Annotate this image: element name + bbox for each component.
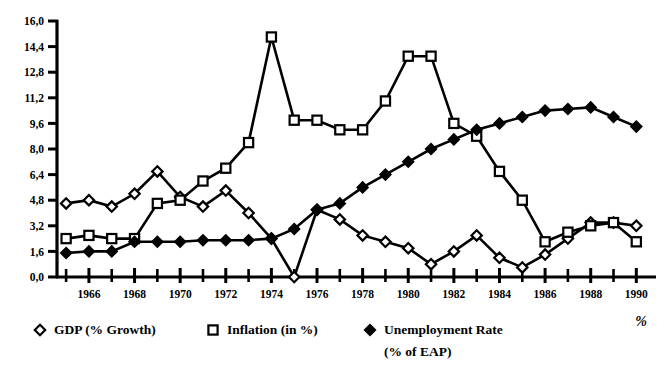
data-point-marker: [563, 104, 573, 114]
y-axis-tick-label: 11,2: [25, 92, 45, 104]
series-line: [66, 37, 636, 242]
y-axis-tick-label: 14,4: [24, 41, 44, 53]
data-point-marker: [84, 195, 94, 205]
legend-item-2[interactable]: Inflation (in %): [208, 322, 317, 337]
legend-label: GDP (% Growth): [54, 322, 156, 337]
data-point-marker: [290, 116, 299, 125]
data-point-marker: [518, 196, 527, 205]
legend-item-3[interactable]: Unemployment Rate(% of EAP): [365, 322, 503, 359]
series-1: [61, 166, 642, 282]
x-axis-tick-label: 1988: [579, 288, 602, 300]
data-point-marker: [175, 237, 185, 247]
data-point-marker: [221, 235, 231, 245]
data-point-marker: [631, 221, 641, 231]
legend-label-line2: (% of EAP): [384, 344, 452, 359]
series-line: [66, 171, 636, 277]
data-point-marker: [152, 237, 162, 247]
legend-label: Inflation (in %): [227, 322, 318, 337]
data-point-marker: [495, 167, 504, 176]
x-axis-tick-label: 1980: [397, 288, 420, 300]
data-point-marker: [426, 144, 436, 154]
data-point-marker: [632, 237, 641, 246]
data-point-marker: [540, 106, 550, 116]
x-axis-tick-label: 1990: [625, 288, 648, 300]
data-point-marker: [358, 125, 367, 134]
data-point-marker: [244, 138, 253, 147]
data-point-marker: [61, 198, 71, 208]
data-point-marker: [609, 218, 618, 227]
data-point-marker: [312, 116, 321, 125]
data-point-marker: [335, 125, 344, 134]
data-point-marker: [403, 157, 413, 167]
x-axis-tick-label: 1986: [534, 288, 557, 300]
data-point-marker: [586, 221, 595, 230]
data-point-marker: [631, 122, 641, 132]
y-axis: 0,01,63,24,86,48,09,611,212,814,416,0: [24, 15, 58, 283]
data-point-marker: [540, 237, 549, 246]
economic-indicators-line-chart: 0,01,63,24,86,48,09,611,212,814,416,0 19…: [0, 0, 667, 380]
data-point-marker: [153, 199, 162, 208]
data-point-marker: [62, 234, 71, 243]
data-point-marker: [609, 112, 619, 122]
data-point-marker: [563, 228, 572, 237]
y-axis-tick-label: 3,2: [30, 220, 45, 232]
y-axis-tick-label: 1,6: [30, 246, 45, 258]
x-axis-tick-label: 1970: [169, 288, 192, 300]
series-layer: [61, 32, 642, 282]
y-axis-tick-label: 4,8: [30, 194, 45, 206]
x-axis-tick-label: 1972: [214, 288, 237, 300]
data-point-marker: [267, 32, 276, 41]
data-point-marker: [494, 118, 504, 128]
data-point-marker: [586, 102, 596, 112]
x-axis-tick-label: 1984: [488, 288, 511, 300]
data-point-marker: [107, 234, 116, 243]
y-axis-tick-label: 0,0: [30, 271, 45, 283]
legend-marker-solid-diamond: [365, 325, 375, 335]
chart-figure: 0,01,63,24,86,48,09,611,212,814,416,0 19…: [0, 0, 667, 380]
data-point-marker: [84, 231, 93, 240]
data-point-marker: [198, 176, 207, 185]
series-2: [62, 32, 641, 246]
x-axis: 1966196819701972197419761978198019821984…: [56, 268, 656, 300]
data-point-marker: [380, 237, 390, 247]
x-axis-tick-label: 1966: [77, 288, 100, 300]
data-point-marker: [107, 246, 117, 256]
data-point-marker: [426, 52, 435, 61]
x-axis-tick-label: 1978: [351, 288, 374, 300]
x-axis-tick-label: 1974: [260, 288, 283, 300]
legend-label: Unemployment Rate: [384, 322, 503, 337]
y-axis-tick-label: 12,8: [24, 66, 44, 78]
unit-label: %: [635, 314, 647, 329]
y-axis-tick-label: 6,4: [30, 169, 45, 181]
x-axis-tick-label: 1976: [306, 288, 329, 300]
data-point-marker: [380, 170, 390, 180]
legend-item-1[interactable]: GDP (% Growth): [35, 322, 156, 337]
y-axis-tick-label: 9,6: [30, 118, 45, 130]
data-point-marker: [61, 248, 71, 258]
data-point-marker: [244, 235, 254, 245]
x-axis-tick-label: 1982: [442, 288, 465, 300]
data-point-marker: [381, 96, 390, 105]
data-point-marker: [221, 164, 230, 173]
data-point-marker: [198, 235, 208, 245]
y-axis-tick-label: 8,0: [30, 143, 45, 155]
data-point-marker: [517, 262, 527, 272]
data-point-marker: [176, 196, 185, 205]
data-point-marker: [404, 52, 413, 61]
data-point-marker: [107, 201, 117, 211]
legend-marker-hollow-square: [208, 325, 217, 334]
data-point-marker: [517, 112, 527, 122]
legend-marker-hollow-diamond: [35, 325, 45, 335]
data-point-marker: [449, 134, 459, 144]
data-point-marker: [84, 246, 94, 256]
chart-legend: GDP (% Growth)Inflation (in %)Unemployme…: [35, 314, 647, 359]
data-point-marker: [449, 119, 458, 128]
y-axis-tick-label: 16,0: [24, 15, 44, 27]
x-axis-tick-label: 1968: [123, 288, 146, 300]
